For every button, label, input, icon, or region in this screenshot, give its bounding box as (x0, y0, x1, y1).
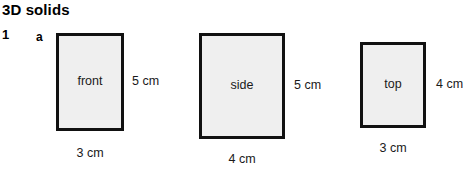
width-dimension-top: 3 cm (360, 141, 426, 156)
figure-side: side 5 cm 4 cm (199, 33, 285, 139)
face-label-top: top (360, 77, 426, 92)
width-dimension-side: 4 cm (199, 152, 285, 167)
worksheet-page: 3D solids 1 a front 5 cm 3 cm side 5 cm … (0, 0, 474, 169)
figure-top: top 4 cm 3 cm (360, 42, 426, 128)
page-title: 3D solids (2, 1, 70, 19)
width-dimension-front: 3 cm (56, 146, 124, 161)
face-label-front: front (56, 74, 124, 89)
height-dimension-front: 5 cm (132, 74, 159, 89)
question-number: 1 (2, 27, 9, 43)
face-label-side: side (199, 78, 285, 93)
height-dimension-side: 5 cm (294, 78, 321, 93)
question-part-label: a (36, 30, 43, 45)
figure-front: front 5 cm 3 cm (56, 33, 124, 131)
height-dimension-top: 4 cm (436, 77, 463, 92)
